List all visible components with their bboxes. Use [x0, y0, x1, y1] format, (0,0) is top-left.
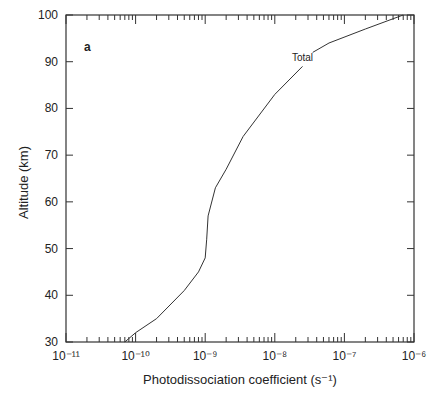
- x-axis-label: Photodissociation coefficient (s⁻¹): [66, 372, 414, 387]
- y-tick-label: 40: [45, 288, 59, 302]
- chart: 10⁻¹¹10⁻¹⁰10⁻⁹10⁻⁸10⁻⁷10⁻⁶30405060708090…: [0, 0, 436, 414]
- y-tick-label: 30: [45, 335, 59, 349]
- y-tick-label: 80: [45, 101, 59, 115]
- y-tick-label: 100: [38, 8, 58, 22]
- series-total-label: Total: [292, 52, 313, 63]
- x-tick-label: 10⁻¹¹: [52, 349, 79, 363]
- x-tick-label: 10⁻⁶: [402, 349, 426, 363]
- y-tick-label: 60: [45, 195, 59, 209]
- panel-label: a: [84, 40, 91, 54]
- x-tick-label: 10⁻⁷: [333, 349, 357, 363]
- series-total-line: [125, 66, 303, 342]
- y-tick-label: 50: [45, 242, 59, 256]
- series-total-line-upper: [313, 15, 404, 52]
- y-tick-label: 70: [45, 148, 59, 162]
- y-tick-label: 90: [45, 55, 59, 69]
- x-tick-label: 10⁻¹⁰: [121, 349, 149, 363]
- x-tick-label: 10⁻⁹: [193, 349, 218, 363]
- plot-area: 10⁻¹¹10⁻¹⁰10⁻⁹10⁻⁸10⁻⁷10⁻⁶30405060708090…: [38, 8, 426, 363]
- x-tick-label: 10⁻⁸: [263, 349, 287, 363]
- y-axis-label: Altitude (km): [16, 128, 31, 238]
- plot-frame: [66, 15, 414, 342]
